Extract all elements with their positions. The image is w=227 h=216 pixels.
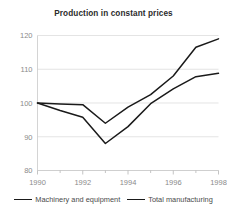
legend-item-total-manufacturing: Total manufacturing xyxy=(127,195,213,204)
series-line xyxy=(38,39,219,123)
y-tick-label: 110 xyxy=(21,65,33,74)
chart-plot-area: 8090100110120 19901992199419961998 xyxy=(0,0,227,216)
x-tick-label: 1996 xyxy=(165,178,182,187)
y-tick-label: 90 xyxy=(24,133,32,142)
x-axis-tick-labels: 19901992199419961998 xyxy=(29,178,227,187)
chart-container: Production in constant prices 8090100110… xyxy=(0,0,227,216)
x-tick-label: 1994 xyxy=(120,178,137,187)
y-tick-label: 120 xyxy=(20,31,33,40)
x-tick-label: 1992 xyxy=(74,178,91,187)
legend-label: Machinery and equipment xyxy=(35,195,120,204)
y-axis-tick-labels: 8090100110120 xyxy=(20,31,33,175)
legend-label: Total manufacturing xyxy=(148,195,213,204)
legend-line-icon xyxy=(127,199,145,200)
y-tick-label: 80 xyxy=(24,166,32,175)
series-line xyxy=(38,73,219,143)
chart-legend: Machinery and equipment Total manufactur… xyxy=(0,195,227,204)
y-tick-label: 100 xyxy=(20,99,33,108)
x-tick-label: 1998 xyxy=(210,178,227,187)
x-tick-label: 1990 xyxy=(29,178,46,187)
x-axis-tickmarks xyxy=(38,171,219,175)
y-gridlines xyxy=(38,36,219,171)
data-series-lines xyxy=(38,39,219,144)
legend-item-machinery-and-equipment: Machinery and equipment xyxy=(14,195,120,204)
legend-line-icon xyxy=(14,199,32,200)
